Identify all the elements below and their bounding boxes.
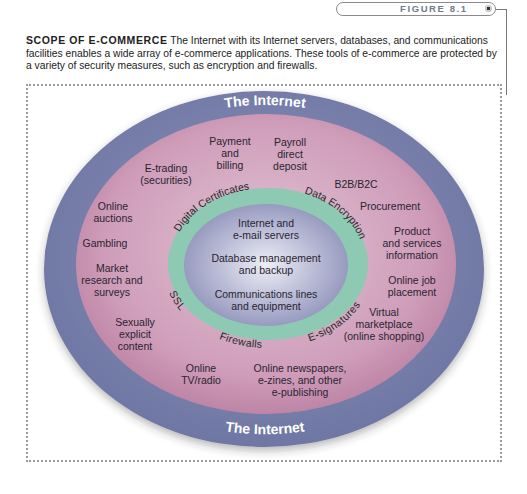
app-explicit-content: Sexually explicit content (100, 316, 170, 352)
app-e-trading: E-trading (securities) (126, 162, 206, 186)
app-procurement: Procurement (350, 200, 430, 212)
core-internet-email-servers: Internet and e-mail servers (206, 217, 326, 241)
app-market-research: Market research and surveys (72, 262, 152, 298)
app-payment-billing: Payment and billing (200, 135, 260, 171)
app-product-services-info: Product and services information (370, 225, 454, 261)
app-payroll-deposit: Payroll direct deposit (260, 136, 320, 172)
core-communications-lines: Communications lines and equipment (196, 288, 336, 312)
app-b2b-b2c: B2B/B2C (326, 178, 386, 190)
app-online-job-placement: Online job placement (372, 274, 452, 298)
app-online-tv-radio: Online TV/radio (166, 362, 236, 386)
app-online-publishing: Online newspapers, e-zines, and other e-… (240, 362, 360, 398)
app-gambling: Gambling (70, 237, 140, 249)
app-online-auctions: Online auctions (78, 200, 148, 224)
app-virtual-marketplace: Virtual marketplace (online shopping) (334, 306, 434, 342)
core-database-management: Database management and backup (196, 252, 336, 276)
